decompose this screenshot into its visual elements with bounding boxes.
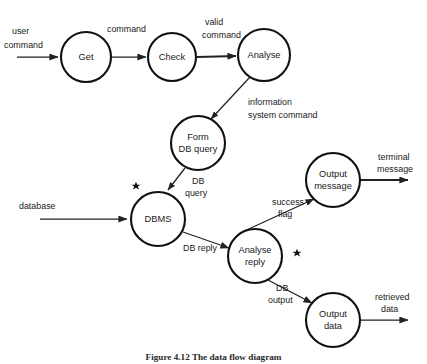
edge-label-terminal-message-line2: message (377, 164, 413, 174)
edge-label-db-output-line1: DB (276, 283, 288, 293)
edge-label-db-reply: DB reply (183, 243, 218, 253)
node-form-db-query-label-line2: DB query (179, 144, 218, 154)
edge-label-user-command-line2: command (4, 40, 43, 50)
figure-caption: Figure 4.12 The data flow diagram (0, 352, 427, 363)
node-analyse-reply: Analyse reply (228, 229, 282, 283)
node-get-label: Get (79, 52, 94, 62)
edge-label-information-system-command-line1: information (248, 97, 292, 107)
node-output-message: Output message (306, 153, 360, 207)
edge-label-command: command (107, 24, 146, 34)
node-output-message-label-line1: Output (319, 169, 347, 179)
edge-label-db-output-line2: output (268, 295, 293, 305)
node-output-message-label-line2: message (314, 181, 352, 191)
edge-label-information-system-command-line2: system command (248, 110, 318, 120)
star-icon-dbms (131, 182, 140, 190)
node-form-db-query: Form DB query (171, 116, 225, 170)
node-output-data-label-line1: Output (319, 309, 347, 319)
node-analyse-reply-label-line1: Analyse (238, 245, 271, 255)
edge-label-database: database (19, 201, 56, 211)
node-form-db-query-label-line1: Form (187, 132, 209, 142)
node-check: Check (148, 33, 196, 81)
node-output-data: Output data (306, 293, 360, 347)
node-get: Get (61, 32, 111, 82)
edge-label-terminal-message-line1: terminal (378, 152, 410, 162)
node-check-label: Check (159, 52, 186, 62)
node-analyse: Analyse (238, 29, 290, 81)
edge-label-valid-command-line2: command (202, 30, 241, 40)
edge-label-success-flag-line2: flag (278, 209, 292, 219)
node-analyse-reply-label-line2: reply (245, 257, 266, 267)
star-icon-analyse-reply (292, 249, 301, 257)
node-analyse-label: Analyse (247, 50, 280, 60)
node-dbms-label: DBMS (145, 214, 172, 224)
edge-label-db-query-line2: query (185, 188, 208, 198)
flow-line-information-system-command (211, 77, 250, 119)
edge-label-user-command-line1: user (12, 26, 29, 36)
edge-label-valid-command-line1: valid (205, 17, 223, 27)
flow-line-valid-command (197, 56, 236, 57)
edge-label-db-query-line1: DB (192, 176, 204, 186)
edge-label-retrieved-data-line2: data (381, 304, 398, 314)
edge-label-retrieved-data-line1: retrieved (375, 292, 410, 302)
node-dbms: DBMS (131, 192, 185, 246)
node-output-data-label-line2: data (324, 321, 343, 331)
flow-line-db-query (168, 168, 185, 190)
edge-label-success-flag-line1: success (272, 197, 305, 207)
figure-canvas: Get Check Analyse Form DB query DBMS Ana… (0, 0, 427, 364)
data-flow-diagram: Get Check Analyse Form DB query DBMS Ana… (0, 0, 427, 364)
